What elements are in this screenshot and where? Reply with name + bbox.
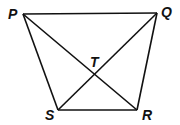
label-p: P xyxy=(8,6,18,22)
label-s: S xyxy=(45,107,55,123)
segment-pq xyxy=(23,13,157,14)
trapezoid-diagram: P Q T S R xyxy=(0,0,180,125)
diagonal-qs xyxy=(58,13,157,110)
label-q: Q xyxy=(161,4,172,20)
label-t: T xyxy=(90,54,100,70)
label-r: R xyxy=(142,107,153,123)
segment-qr xyxy=(137,13,157,110)
